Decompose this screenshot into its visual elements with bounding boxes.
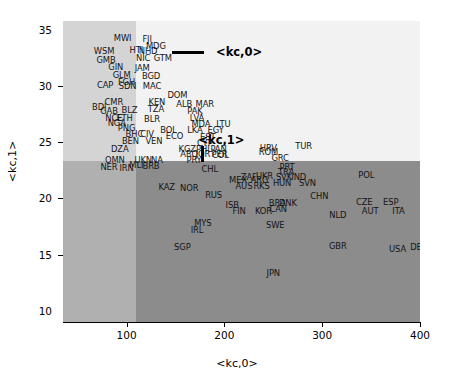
x-tick [224,322,225,327]
data-point-label: JPN [267,268,281,278]
annotation-marker-0 [172,51,204,54]
data-point-label: BRB [143,161,160,171]
x-axis-line [63,322,420,323]
plot-area: MWIFJIMDGWSMHTINHDNICGTMGMBGINJAMGLMBGDF… [63,21,420,322]
data-point-label: NIC [136,53,150,63]
data-point-label: SDN [119,81,137,91]
y-tick [58,86,63,87]
data-point-label: CHN [310,191,328,201]
x-tick-label: 300 [312,329,332,341]
data-point-label: ITA [392,206,404,216]
data-point-label: AUS [235,181,252,191]
data-point-label: NER [100,162,117,172]
data-point-label: NLD [329,210,346,220]
data-point-label: SVN [299,178,316,188]
data-point-label: TZA [148,104,164,114]
x-tick [420,322,421,327]
data-point-label: KOR [255,206,272,216]
y-tick [58,198,63,199]
x-tick-label: 400 [410,329,430,341]
data-point-label: COL [212,150,229,160]
annotation-label-0: <kc,0> [216,45,262,59]
x-tick-label: 200 [214,329,234,341]
data-point-label: BGD [142,71,160,81]
y-tick [58,142,63,143]
data-point-label: NOR [180,183,198,193]
data-point-label: VEN [145,136,162,146]
annotation-label-1: <kc,1> [198,133,244,147]
y-tick-label: 10 [0,305,52,317]
quadrant-lower-left [63,161,136,322]
data-point-label: BLR [144,114,160,124]
data-point-label: MWI [114,33,132,43]
data-point-label: USA [389,244,406,254]
data-point-label: FIN [232,206,245,216]
y-axis-label: <kc,1> [6,122,19,202]
data-point-label: SWE [266,220,285,230]
x-tick [322,322,323,327]
data-point-label: MAC [143,81,161,91]
x-tick-label: 100 [117,329,137,341]
data-point-label: CHL [201,164,218,174]
y-tick [58,255,63,256]
data-point-label: ECO [166,131,183,141]
data-point-label: SGP [174,242,191,252]
data-point-label: PRY [186,155,201,165]
x-tick [127,322,128,327]
y-tick-label: 15 [0,249,52,261]
data-point-label: DZA [111,144,129,154]
data-point-label: CAP [97,80,113,90]
data-point-label: AUT [362,206,379,216]
data-point-label: IRL [191,225,204,235]
x-axis-label: <kc,0> [0,357,474,370]
y-tick-label: 30 [0,80,52,92]
data-point-label: POL [358,170,374,180]
data-point-label: IRN [119,163,133,173]
data-point-label: KAZ [158,182,175,192]
data-point-label: GTM [154,53,172,63]
data-point-label: RKS [253,181,269,191]
data-point-label: DEU [410,242,420,252]
y-tick-label: 35 [0,24,52,36]
annotation-marker-1 [201,146,204,162]
data-point-label: TUR [295,141,312,151]
scatter-plot-figure: MWIFJIMDGWSMHTINHDNICGTMGMBGINJAMGLMBGDF… [0,0,474,390]
data-point-label: RUS [205,190,222,200]
data-point-label: HUN [273,178,291,188]
data-point-label: GBR [329,241,347,251]
